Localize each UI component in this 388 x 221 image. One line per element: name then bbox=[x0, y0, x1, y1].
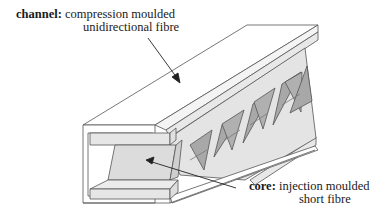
channel-desc-line2: unidirectional fibre bbox=[16, 21, 179, 34]
core-web-section bbox=[108, 145, 176, 180]
core-desc-line2: short fibre bbox=[249, 193, 370, 206]
core-desc-line1: injection moulded bbox=[279, 179, 370, 193]
channel-label: channel: compression moulded unidirectio… bbox=[16, 8, 179, 34]
channel-term: channel: bbox=[16, 7, 62, 21]
core-label: core: injection moulded short fibre bbox=[249, 180, 370, 206]
core-term: core: bbox=[249, 179, 276, 193]
channel-arrow-line bbox=[148, 38, 177, 78]
upper-flange-front bbox=[90, 133, 170, 145]
lower-flange-front bbox=[90, 189, 170, 199]
channel-desc-line1: compression moulded bbox=[65, 7, 175, 21]
